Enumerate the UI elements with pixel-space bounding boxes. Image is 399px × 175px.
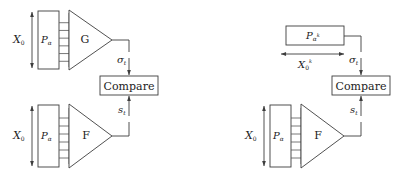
left-sigma-label: σt xyxy=(117,54,127,66)
left-top-branch: X0 Pα G σt xyxy=(12,10,129,75)
right-comparator: Compare xyxy=(332,76,390,95)
right-bottom-span-label: X0 xyxy=(244,129,257,142)
left-top-processor-block xyxy=(69,10,112,70)
left-sigma-wire xyxy=(112,40,129,52)
left-bottom-processor-block xyxy=(69,104,112,168)
left-comparator: Compare xyxy=(100,76,158,95)
right-comparator-label: Compare xyxy=(336,80,387,93)
right-top-branch: Pαk σt X0k xyxy=(281,26,361,75)
diagram-svg: X0 Pα G σt Compare xyxy=(0,0,399,175)
right-sigma-wire xyxy=(344,36,361,52)
left-bottom-output-wire xyxy=(112,133,129,136)
right-bottom-processor-label: F xyxy=(314,129,322,142)
left-bottom-connector-ladder xyxy=(59,108,69,164)
right-panel: Pαk σt X0k Compare st xyxy=(244,26,390,168)
right-s-label: st xyxy=(350,104,358,116)
right-sigma-label: σt xyxy=(349,54,359,66)
figure-canvas: X0 Pα G σt Compare xyxy=(0,0,399,175)
right-bottom-branch: st X0 Pα F xyxy=(244,96,361,168)
left-bottom-processor-label: F xyxy=(82,129,90,142)
right-bottom-processor-block xyxy=(301,104,344,168)
right-bottom-output-wire xyxy=(344,133,361,136)
left-top-span-label: X0 xyxy=(12,33,25,46)
left-s-label: st xyxy=(118,104,126,116)
right-bottom-connector-ladder xyxy=(291,108,301,164)
left-panel: X0 Pα G σt Compare xyxy=(12,10,158,168)
left-comparator-label: Compare xyxy=(104,80,155,93)
left-bottom-branch: st X0 Pα F xyxy=(12,96,129,168)
left-bottom-span-label: X0 xyxy=(12,129,25,142)
right-top-span-label: X0k xyxy=(297,58,312,70)
left-top-processor-label: G xyxy=(81,33,90,46)
left-top-connector-ladder xyxy=(59,13,69,67)
